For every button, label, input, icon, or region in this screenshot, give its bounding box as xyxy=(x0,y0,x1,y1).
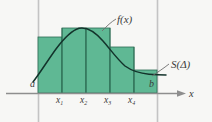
tick-label-x4: x4 xyxy=(128,96,135,106)
lower-limit-label: a xyxy=(30,79,35,89)
upper-limit-label: b xyxy=(149,79,154,89)
tick-label-x3: x3 xyxy=(104,96,111,106)
x-axis-label: x xyxy=(189,89,194,100)
rectangle-3 xyxy=(86,28,110,93)
riemann-rectangles xyxy=(38,28,157,93)
tick-subscript-x1: 1 xyxy=(60,100,63,106)
riemann-sum-label: S(Δ) xyxy=(171,59,190,70)
function-label: f(x) xyxy=(117,14,132,25)
tick-label-x1: x1 xyxy=(56,96,63,106)
tick-subscript-x4: 4 xyxy=(132,100,135,106)
tick-label-x2: x2 xyxy=(80,96,87,106)
riemann-sum-figure: f(x) S(Δ) a b x1 x2 x3 x4 x xyxy=(0,0,212,122)
tick-subscript-x2: 2 xyxy=(84,100,87,106)
x-axis-arrowhead xyxy=(177,90,186,96)
tick-subscript-x3: 3 xyxy=(108,100,111,106)
